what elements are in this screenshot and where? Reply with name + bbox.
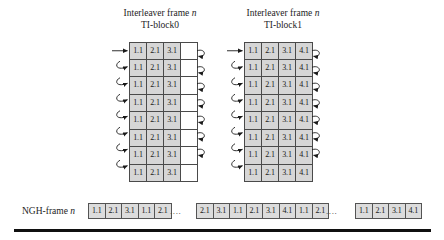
interleaver-cell: 4.1 — [295, 94, 313, 113]
timeline-rule — [14, 229, 431, 232]
ngh-frame-cell: 2.1 — [105, 203, 123, 219]
flow-arrow — [197, 149, 204, 155]
interleaver-row: 1.12.13.1 — [129, 42, 198, 60]
ti-block0-title: Interleaver frame n TI-block0 — [110, 8, 210, 31]
flow-arrow — [312, 116, 319, 122]
interleaver-cell: 3.1 — [278, 76, 296, 95]
ti-block1-title-line2: TI-block1 — [264, 20, 302, 30]
flow-arrow — [312, 67, 319, 73]
ti-block0-title-line1: Interleaver frame n — [124, 8, 197, 18]
interleaver-row: 1.12.13.1 — [129, 130, 198, 148]
interleaver-cell: 4.1 — [295, 164, 313, 183]
interleaver-cell: 1.1 — [244, 76, 262, 95]
interleaver-cell: 4.1 — [295, 42, 313, 60]
interleaver-row: 1.12.13.14.1 — [244, 42, 313, 60]
interleaver-cell: 3.1 — [163, 146, 181, 165]
ngh-frame-index-italic: n — [70, 206, 75, 216]
interleaver-cell: 1.1 — [129, 111, 147, 130]
interleaver-cell: 2.1 — [146, 59, 164, 78]
interleaver-row: 1.12.13.1 — [129, 77, 198, 95]
diagram-canvas: Interleaver frame n TI-block0 Interleave… — [0, 0, 444, 240]
ti-block1-title-line1: Interleaver frame n — [247, 8, 320, 18]
flow-arrow — [312, 83, 319, 89]
flow-arrow — [117, 78, 128, 85]
flow-arrow — [232, 111, 243, 118]
ngh-frame-group: 1.12.13.14.1 — [355, 203, 422, 219]
ngh-frame-cell: 1.1 — [229, 203, 247, 219]
flow-arrow — [197, 50, 204, 56]
interleaver-cell: 2.1 — [146, 94, 164, 113]
interleaver-cell: 4.1 — [295, 129, 313, 148]
interleaver-row: 1.12.13.14.1 — [244, 130, 313, 148]
interleaver-cell: 2.1 — [261, 129, 279, 148]
flow-arrow — [232, 94, 243, 101]
flow-arrow — [117, 94, 128, 101]
ngh-frame-cell: 1.1 — [355, 203, 373, 219]
interleaver-cell: 2.1 — [261, 42, 279, 60]
ngh-frame-cell: 4.1 — [279, 203, 297, 219]
flow-arrow — [232, 160, 243, 167]
interleaver-cell: 4.1 — [295, 111, 313, 130]
interleaver-cell: 4.1 — [295, 59, 313, 78]
interleaver-cell: 2.1 — [261, 111, 279, 130]
interleaver-row: 1.12.13.1 — [129, 95, 198, 113]
interleaver-row: 1.12.13.1 — [129, 112, 198, 130]
interleaver-cell: 3.1 — [163, 76, 181, 95]
interleaver-cell-empty — [180, 146, 198, 165]
interleaver-cell: 2.1 — [146, 76, 164, 95]
interleaver-cell: 3.1 — [163, 111, 181, 130]
interleaver-row: 1.12.13.1 — [129, 165, 198, 183]
interleaver-cell: 4.1 — [295, 76, 313, 95]
flow-arrow — [117, 127, 128, 134]
interleaver-cell: 3.1 — [163, 129, 181, 148]
ti-block1-title: Interleaver frame n TI-block1 — [228, 8, 338, 31]
interleaver-cell: 1.1 — [129, 76, 147, 95]
flow-arrow — [232, 61, 243, 68]
interleaver-row: 1.12.13.14.1 — [244, 147, 313, 165]
interleaver-cell: 1.1 — [244, 42, 262, 60]
flow-arrow — [197, 133, 204, 139]
ngh-frame-cell: 3.1 — [388, 203, 406, 219]
ngh-frame-cell: 2.1 — [246, 203, 264, 219]
interleaver-cell: 3.1 — [278, 111, 296, 130]
interleaver-cell: 2.1 — [146, 42, 164, 60]
interleaver-row: 1.12.13.14.1 — [244, 77, 313, 95]
flow-arrow — [232, 144, 243, 151]
interleaver-cell: 3.1 — [163, 42, 181, 60]
interleaver-cell: 3.1 — [278, 146, 296, 165]
flow-arrow — [232, 127, 243, 134]
flow-arrow — [117, 160, 128, 167]
interleaver-cell: 2.1 — [261, 146, 279, 165]
flow-arrow — [197, 100, 204, 106]
interleaver-cell: 1.1 — [244, 94, 262, 113]
interleaver-cell: 1.1 — [129, 59, 147, 78]
interleaver-cell: 3.1 — [278, 42, 296, 60]
interleaver-cell: 1.1 — [129, 94, 147, 113]
ngh-frame-cell: 3.1 — [121, 203, 139, 219]
flow-arrow — [312, 133, 319, 139]
interleaver-cell: 3.1 — [163, 59, 181, 78]
interleaver-cell: 2.1 — [261, 164, 279, 183]
interleaver-cell: 1.1 — [244, 59, 262, 78]
interleaver-cell-empty — [180, 76, 198, 95]
ti-block0-title-line2: TI-block0 — [141, 20, 179, 30]
ngh-frame-cell: 2.1 — [154, 203, 172, 219]
interleaver-row: 1.12.13.14.1 — [244, 112, 313, 130]
interleaver-cell: 2.1 — [146, 146, 164, 165]
flow-arrow — [312, 149, 319, 155]
interleaver-cell: 3.1 — [278, 94, 296, 113]
interleaver-cell: 2.1 — [146, 164, 164, 183]
ngh-frame-cell: 3.1 — [213, 203, 231, 219]
ngh-frame-cell: 1.1 — [138, 203, 156, 219]
interleaver-cell: 2.1 — [261, 76, 279, 95]
frame-index-italic: n — [315, 8, 320, 18]
flow-arrow — [117, 111, 128, 118]
flow-arrow — [197, 67, 204, 73]
interleaver-cell: 1.1 — [129, 146, 147, 165]
ti-block1-grid: 1.12.13.14.11.12.13.14.11.12.13.14.11.12… — [244, 42, 313, 182]
flow-arrow — [312, 50, 319, 56]
interleaver-cell: 2.1 — [146, 111, 164, 130]
ti-block0-grid: 1.12.13.11.12.13.11.12.13.11.12.13.11.12… — [129, 42, 198, 182]
flow-arrow — [232, 78, 243, 85]
interleaver-cell: 3.1 — [163, 94, 181, 113]
